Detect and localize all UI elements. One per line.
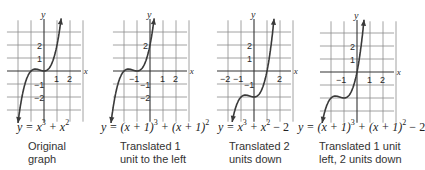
svg-text:2: 2 [173, 74, 178, 84]
caption-line: units down [229, 153, 290, 166]
svg-text:1: 1 [37, 54, 42, 64]
svg-text:x: x [189, 66, 194, 76]
caption-translated-left-down: Translated 1 unit left, 2 units down [319, 140, 402, 166]
panel-translated-left-down: xy−11221 [320, 10, 401, 123]
svg-text:y: y [250, 9, 256, 20]
svg-text:−1: −1 [129, 74, 139, 84]
svg-text:2: 2 [143, 41, 148, 51]
svg-text:1: 1 [160, 74, 165, 84]
caption-line: graph [28, 153, 66, 166]
svg-text:y: y [146, 9, 152, 20]
panel-original-graph: xy1221−1−2 [7, 9, 88, 123]
caption-translated-down: Translated 2 units down [229, 140, 290, 166]
caption-line: Original [28, 140, 66, 153]
svg-text:1: 1 [367, 75, 372, 85]
caption-original: Original graph [28, 140, 66, 166]
caption-line: Translated 1 unit [319, 140, 402, 153]
equation-translated-left: y = (x + 1)3 + (x + 1)2 [101, 120, 209, 135]
curve [322, 20, 364, 123]
svg-text:2: 2 [350, 42, 355, 52]
svg-text:x: x [293, 66, 298, 76]
svg-text:−2: −2 [220, 74, 230, 84]
svg-text:2: 2 [67, 74, 72, 84]
caption-line: unit to the left [120, 153, 186, 166]
svg-text:1: 1 [350, 55, 355, 65]
panel-translated-left: xy−1122−1−2 [109, 9, 193, 123]
svg-text:2: 2 [380, 75, 385, 85]
svg-text:−1: −1 [233, 74, 243, 84]
svg-text:x: x [396, 67, 401, 77]
caption-line: Translated 1 [120, 140, 186, 153]
svg-text:−1: −1 [140, 80, 150, 90]
equation-original: y = x3 + x2 [17, 120, 69, 135]
svg-text:2: 2 [277, 74, 282, 84]
curve [232, 19, 274, 122]
svg-text:−1: −1 [336, 75, 346, 85]
svg-text:y: y [40, 9, 46, 20]
svg-text:−1: −1 [34, 80, 44, 90]
caption-translated-left: Translated 1 unit to the left [120, 140, 186, 166]
svg-text:x: x [83, 66, 88, 76]
svg-text:−2: −2 [140, 93, 150, 103]
equation-translated-down: y = x3 + x2 − 2 [218, 120, 289, 135]
svg-text:−2: −2 [34, 93, 44, 103]
svg-text:−1: −1 [244, 80, 254, 90]
svg-text:2: 2 [37, 41, 42, 51]
equation-translated-left-down: y = (x + 1)3 + (x + 1)2 − 2 [298, 120, 425, 135]
svg-text:2: 2 [247, 41, 252, 51]
svg-text:1: 1 [247, 54, 252, 64]
caption-line: left, 2 units down [319, 153, 402, 166]
panel-translated-down: xy−2−1221−1 [217, 9, 298, 122]
caption-line: Translated 2 [229, 140, 290, 153]
svg-text:1: 1 [54, 74, 59, 84]
svg-text:y: y [353, 10, 359, 21]
